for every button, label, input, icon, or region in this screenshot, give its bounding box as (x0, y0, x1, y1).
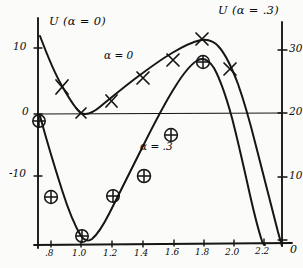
x-tick-label-0-8: .8 (45, 249, 54, 258)
x-tick-label-1-2: 1.2 (103, 249, 117, 258)
marker-plus-1-58 (167, 54, 179, 66)
left-tick-label-10: 10 (13, 41, 26, 52)
x-tick-label-1-0: 1.0 (72, 249, 86, 258)
marker-circleplus-0-75 (33, 115, 45, 127)
right-origin-label: 0 (290, 244, 297, 255)
marker-plus-0-80 (56, 80, 68, 94)
x-axis-line (34, 243, 292, 245)
left-tick-label-neg10: -10 (9, 168, 26, 179)
marker-circleplus-1-40 (138, 170, 151, 183)
curve-label-alpha-3: α = .3 (140, 141, 173, 152)
x-tick-label-2-0: 2.0 (225, 248, 239, 257)
x-tick-label-2-2: 2.2 (255, 247, 269, 256)
marker-circleplus-1-00 (76, 230, 88, 242)
right-axis-title: U (α = .3) (218, 5, 279, 17)
right-tick-label-10: 10 (289, 170, 302, 181)
curve-label-alpha-0: α = 0 (104, 50, 133, 61)
left-tick-label-0: 0 (22, 106, 29, 117)
marker-plus-group (56, 33, 236, 118)
x-tick-label-1-6: 1.6 (165, 248, 179, 257)
right-tick-label-30: 30 (289, 43, 302, 54)
x-tick-label-1-4: 1.4 (134, 249, 148, 258)
right-tick-label-20: 20 (289, 106, 302, 117)
left-axis-title: U (α = 0) (49, 16, 106, 28)
plot-svg (0, 0, 303, 268)
figure-canvas: U (α = 0) U (α = .3) 10 0 -10 30 20 10 0… (0, 0, 303, 268)
marker-circleplus-0-82 (45, 191, 58, 204)
marker-circleplus-1-18 (107, 190, 120, 203)
marker-circleplus-1-78 (197, 56, 210, 69)
x-tick-label-1-8: 1.8 (195, 248, 209, 257)
